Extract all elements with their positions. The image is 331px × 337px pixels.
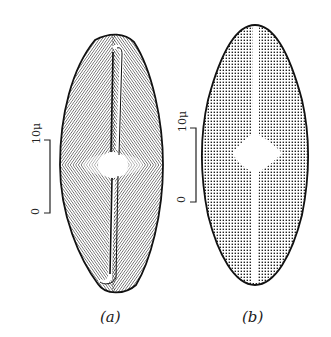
scale-b-bottom-label: 0	[175, 196, 188, 203]
scale-a-top-label: 10μ	[30, 123, 43, 144]
valve-a	[60, 30, 167, 300]
scale-bar-b	[190, 128, 196, 202]
diatom-figure	[0, 0, 331, 337]
scale-bar-a	[44, 140, 50, 213]
panel-label-b: (b)	[242, 308, 263, 326]
panel-label-a: (a)	[100, 308, 121, 326]
scale-b-top-label: 10μ	[176, 111, 189, 132]
valve-b	[200, 20, 315, 290]
scale-a-bottom-label: 0	[29, 208, 42, 215]
